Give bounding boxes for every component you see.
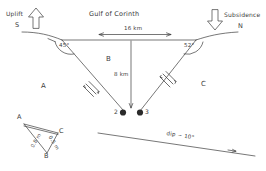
block-label-B: B: [106, 56, 111, 63]
fault-angle-right-label: 52°: [184, 43, 194, 49]
fault-line-right: [140, 40, 196, 111]
cross-section-figure: Uplift S Subsidence N Gulf of Corinth 16…: [0, 0, 266, 171]
node-dot-2: [120, 109, 126, 115]
uplift-direction-label: S: [15, 22, 19, 29]
subsidence-direction-label: N: [238, 23, 243, 30]
basin-title-label: Gulf of Corinth: [89, 11, 139, 18]
block-label-A: A: [41, 83, 46, 90]
slip-hatch-right: [160, 72, 176, 88]
inset-vertex-label-B: B: [44, 153, 49, 160]
angle-tick-left: [48, 39, 55, 42]
fault-angle-left-label: 45°: [59, 43, 69, 49]
inset-vertex-label-C: C: [59, 128, 64, 135]
block-label-C: C: [201, 81, 206, 88]
slip-hatch-left: [84, 82, 100, 97]
subsidence-label: Subsidence: [224, 12, 261, 18]
surface-line-south: [22, 32, 62, 40]
width-measure-label: 16 km: [124, 26, 142, 32]
node-label-2: 2: [114, 109, 118, 115]
arrow-up-outline-icon: [29, 8, 44, 28]
node-label-3: 3: [145, 109, 149, 115]
node-dot-3: [137, 109, 143, 115]
uplift-label: Uplift: [6, 11, 23, 17]
arrow-down-outline-icon: [208, 10, 223, 30]
surface-line-north: [196, 32, 238, 40]
depth-measure-label: 8 km: [114, 72, 129, 78]
inset-vertex-label-A: A: [17, 114, 22, 121]
